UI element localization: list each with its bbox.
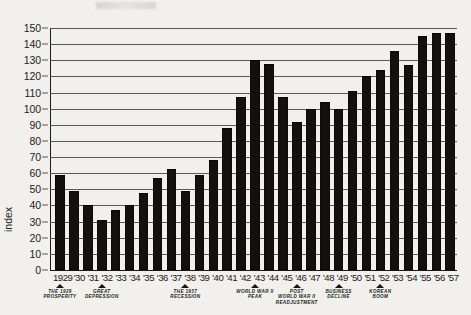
y-tick-mark-130 [42, 60, 48, 61]
bar-slot [415, 28, 429, 270]
bar-30[interactable] [69, 191, 78, 270]
y-tick-mark-70 [42, 157, 48, 158]
y-tick-label-120: 120 [24, 70, 41, 82]
y-tick-label-10: 10 [30, 248, 41, 260]
chart-annotations: THE 1929 PROSPERITYGREAT DEPRESSIONTHE 1… [50, 284, 457, 312]
y-tick-label-150: 150 [24, 22, 41, 34]
y-tick-mark-60 [42, 173, 48, 174]
y-tick-mark-50 [42, 189, 48, 190]
bar-38[interactable] [181, 191, 190, 270]
bar-36[interactable] [153, 178, 162, 270]
bar-53[interactable] [390, 51, 399, 270]
y-tick-label-30: 30 [30, 216, 41, 228]
y-tick-mark-140 [42, 44, 48, 45]
bar-56[interactable] [432, 33, 441, 270]
bar-51[interactable] [362, 76, 371, 270]
bar-series [50, 28, 457, 270]
bar-slot [123, 28, 137, 270]
bar-49[interactable] [334, 109, 343, 270]
bar-54[interactable] [404, 65, 413, 270]
bar-32[interactable] [97, 220, 106, 270]
bar-slot [206, 28, 220, 270]
y-tick-label-140: 140 [24, 38, 41, 50]
annotation-korean: KOREAN BOOM [337, 284, 423, 300]
bar-slot [137, 28, 151, 270]
y-tick-label-20: 20 [30, 232, 41, 244]
bar-33[interactable] [111, 210, 120, 271]
bar-slot [276, 28, 290, 270]
bar-44[interactable] [264, 64, 273, 271]
bar-1929[interactable] [55, 175, 64, 270]
bar-chart: index 0102030405060708090100110120130140… [0, 0, 471, 315]
bar-slot [165, 28, 179, 270]
bar-50[interactable] [348, 91, 357, 270]
bar-slot [304, 28, 318, 270]
y-tick-label-130: 130 [24, 54, 41, 66]
bar-slot [192, 28, 206, 270]
bar-slot [220, 28, 234, 270]
bar-31[interactable] [83, 205, 92, 270]
bar-slot [360, 28, 374, 270]
y-tick-label-40: 40 [30, 199, 41, 211]
y-tick-mark-100 [42, 108, 48, 109]
bar-slot [318, 28, 332, 270]
bar-34[interactable] [125, 205, 134, 270]
bar-45[interactable] [278, 97, 287, 270]
y-tick-mark-110 [42, 92, 48, 93]
bar-slot [374, 28, 388, 270]
y-tick-label-80: 80 [30, 135, 41, 147]
bar-slot [346, 28, 360, 270]
y-tick-label-50: 50 [30, 183, 41, 195]
bar-55[interactable] [418, 36, 427, 270]
bar-40[interactable] [209, 160, 218, 271]
bar-slot [248, 28, 262, 270]
bar-slot [401, 28, 415, 270]
bar-43[interactable] [250, 60, 259, 270]
y-tick-mark-120 [42, 76, 48, 77]
y-tick-label-60: 60 [30, 167, 41, 179]
bar-slot [290, 28, 304, 270]
y-axis-title: index [2, 207, 14, 232]
bar-39[interactable] [195, 175, 204, 270]
y-tick-mark-150 [42, 28, 48, 29]
bar-41[interactable] [222, 128, 231, 270]
y-tick-label-0: 0 [35, 264, 41, 276]
plot-area: 0102030405060708090100110120130140150 [50, 28, 457, 270]
bar-35[interactable] [139, 193, 148, 270]
bar-slot [67, 28, 81, 270]
bar-42[interactable] [236, 97, 245, 270]
y-tick-mark-90 [42, 124, 48, 125]
y-tick-label-70: 70 [30, 151, 41, 163]
bar-46[interactable] [292, 122, 301, 270]
y-tick-label-110: 110 [25, 87, 41, 99]
bar-slot [151, 28, 165, 270]
bar-47[interactable] [306, 109, 315, 270]
y-tick-mark-30 [42, 221, 48, 222]
bar-slot [109, 28, 123, 270]
bar-37[interactable] [167, 169, 176, 270]
bar-57[interactable] [445, 33, 454, 270]
bar-slot [178, 28, 192, 270]
y-tick-mark-10 [42, 253, 48, 254]
bar-slot [429, 28, 443, 270]
y-tick-label-100: 100 [24, 103, 41, 115]
bar-slot [443, 28, 457, 270]
bar-slot [262, 28, 276, 270]
y-tick-mark-80 [42, 140, 48, 141]
annotation-label: KOREAN BOOM [337, 289, 423, 300]
bar-52[interactable] [376, 70, 385, 270]
bar-slot [81, 28, 95, 270]
gridline-0 [50, 270, 457, 271]
caret-icon [181, 284, 189, 288]
y-tick-mark-40 [42, 205, 48, 206]
bar-slot [53, 28, 67, 270]
y-tick-label-90: 90 [30, 119, 41, 131]
y-tick-mark-0 [42, 270, 48, 271]
y-tick-mark-20 [42, 237, 48, 238]
bar-slot [332, 28, 346, 270]
bar-slot [95, 28, 109, 270]
bar-48[interactable] [320, 102, 329, 270]
bar-slot [388, 28, 402, 270]
annotation-great: GREAT DEPRESSION [59, 284, 145, 300]
annotation-label: GREAT DEPRESSION [59, 289, 145, 300]
